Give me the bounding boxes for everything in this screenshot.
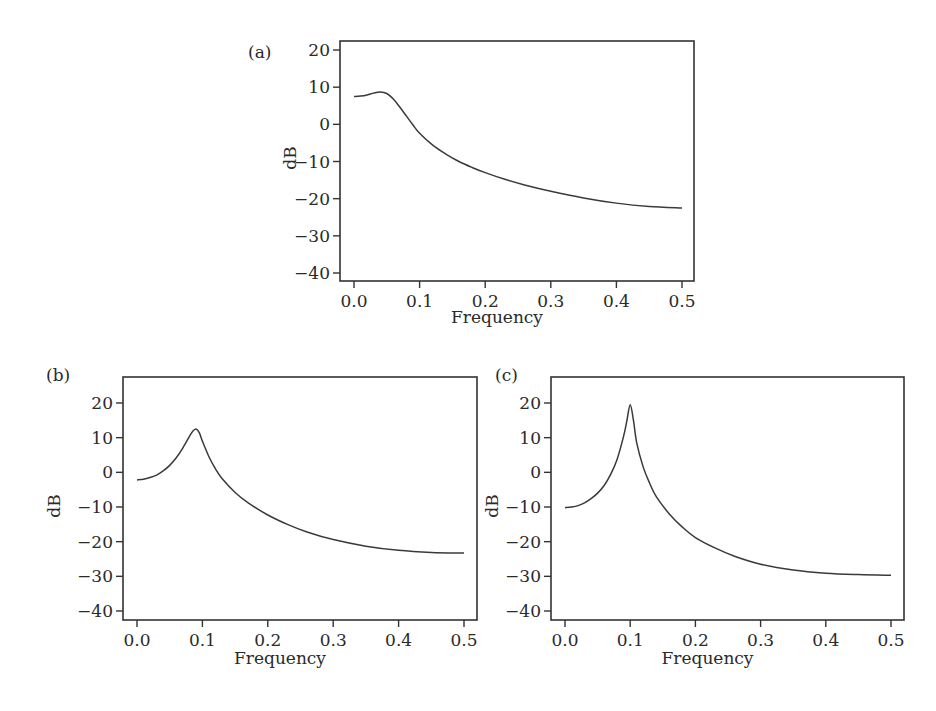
plot-frame bbox=[551, 377, 904, 620]
x-tick-label: 0.4 bbox=[385, 630, 412, 650]
x-tick-label: 0.0 bbox=[551, 630, 578, 650]
x-tick-label: 0.5 bbox=[450, 630, 477, 650]
y-tick-label: −40 bbox=[505, 601, 541, 621]
x-tick-label: 0.2 bbox=[682, 630, 709, 650]
x-tick-label: 0.3 bbox=[747, 630, 774, 650]
panel-label: (c) bbox=[495, 365, 518, 385]
y-tick-label: 10 bbox=[308, 77, 330, 97]
y-axis: 20100−10−20−30−40 bbox=[505, 393, 551, 621]
panel-label: (a) bbox=[248, 42, 271, 62]
plot-frame bbox=[123, 377, 477, 620]
y-tick-label: 0 bbox=[319, 114, 330, 134]
y-axis-label: dB bbox=[482, 494, 502, 517]
chart-panel-a: 20100−10−20−30−400.00.10.20.30.40.5Frequ… bbox=[248, 40, 696, 327]
chart-panel-b: 20100−10−20−30−400.00.10.20.30.40.5Frequ… bbox=[44, 365, 478, 668]
y-tick-label: −10 bbox=[77, 497, 113, 517]
y-axis-label: dB bbox=[44, 494, 64, 517]
y-tick-label: 10 bbox=[91, 428, 113, 448]
x-tick-label: 0.2 bbox=[254, 630, 281, 650]
plot-frame bbox=[340, 41, 694, 281]
x-tick-label: 0.4 bbox=[812, 630, 839, 650]
x-tick-label: 0.0 bbox=[123, 630, 150, 650]
x-axis-label: Frequency bbox=[234, 648, 326, 668]
figure-canvas: 20100−10−20−30−400.00.10.20.30.40.5Frequ… bbox=[0, 0, 936, 711]
y-tick-label: −30 bbox=[505, 566, 541, 586]
y-tick-label: −20 bbox=[505, 532, 541, 552]
x-axis: 0.00.10.20.30.40.5 bbox=[123, 620, 477, 650]
spectrum-line bbox=[354, 92, 682, 208]
y-tick-label: −40 bbox=[294, 263, 330, 283]
y-axis-label: dB bbox=[280, 146, 300, 169]
chart-panel-c: 20100−10−20−30−400.00.10.20.30.40.5Frequ… bbox=[482, 365, 905, 668]
y-tick-label: −30 bbox=[77, 566, 113, 586]
y-tick-label: −10 bbox=[505, 497, 541, 517]
y-tick-label: 20 bbox=[91, 393, 113, 413]
y-tick-label: −40 bbox=[77, 601, 113, 621]
x-tick-label: 0.4 bbox=[603, 291, 630, 311]
x-tick-label: 0.1 bbox=[406, 291, 433, 311]
y-tick-label: 0 bbox=[530, 462, 541, 482]
y-tick-label: 10 bbox=[519, 428, 541, 448]
x-tick-label: 0.0 bbox=[340, 291, 367, 311]
x-tick-label: 0.1 bbox=[617, 630, 644, 650]
x-tick-label: 0.3 bbox=[320, 630, 347, 650]
y-tick-label: 0 bbox=[102, 462, 113, 482]
spectrum-line bbox=[137, 429, 464, 553]
y-tick-label: −20 bbox=[294, 189, 330, 209]
y-tick-label: −20 bbox=[77, 532, 113, 552]
y-axis: 20100−10−20−30−40 bbox=[77, 393, 123, 621]
y-tick-label: 20 bbox=[519, 393, 541, 413]
panel-label: (b) bbox=[46, 365, 70, 385]
y-tick-label: 20 bbox=[308, 40, 330, 60]
x-tick-label: 0.1 bbox=[189, 630, 216, 650]
x-axis: 0.00.10.20.30.40.5 bbox=[551, 620, 904, 650]
y-axis: 20100−10−20−30−40 bbox=[294, 40, 340, 283]
x-axis-label: Frequency bbox=[451, 307, 543, 327]
y-tick-label: −30 bbox=[294, 226, 330, 246]
x-tick-label: 0.5 bbox=[877, 630, 904, 650]
x-axis-label: Frequency bbox=[662, 648, 754, 668]
x-tick-label: 0.5 bbox=[668, 291, 695, 311]
spectrum-line bbox=[565, 405, 891, 576]
